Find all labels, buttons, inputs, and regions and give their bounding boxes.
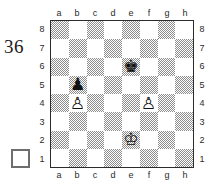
square-e7[interactable]: [122, 39, 140, 57]
square-b5[interactable]: ♟: [69, 76, 87, 94]
file-label: a: [50, 7, 68, 20]
square-e8[interactable]: [122, 21, 140, 39]
square-f4[interactable]: ♙: [140, 94, 158, 112]
square-h8[interactable]: [175, 21, 193, 39]
file-label: b: [68, 169, 86, 182]
square-c7[interactable]: [87, 39, 105, 57]
square-a1[interactable]: [51, 149, 69, 167]
square-h2[interactable]: [175, 131, 193, 149]
square-h4[interactable]: [175, 94, 193, 112]
square-b8[interactable]: [69, 21, 87, 39]
white-king-icon: ♔: [122, 131, 140, 149]
square-f7[interactable]: [140, 39, 158, 57]
square-c5[interactable]: [87, 76, 105, 94]
square-e3[interactable]: [122, 112, 140, 130]
rank-label: 7: [36, 39, 48, 58]
square-h7[interactable]: [175, 39, 193, 57]
file-labels-top: a b c d e f g h: [50, 7, 194, 20]
black-pawn-icon: ♟: [69, 76, 87, 94]
square-h3[interactable]: [175, 112, 193, 130]
rank-label: 6: [196, 57, 208, 76]
file-label: d: [104, 169, 122, 182]
square-f6[interactable]: [140, 58, 158, 76]
square-h5[interactable]: [175, 76, 193, 94]
square-a7[interactable]: [51, 39, 69, 57]
board-frame: ♚♟♙♙♔: [50, 20, 194, 168]
square-g3[interactable]: [158, 112, 176, 130]
square-g7[interactable]: [158, 39, 176, 57]
file-label: f: [140, 169, 158, 182]
square-e4[interactable]: [122, 94, 140, 112]
square-d3[interactable]: [104, 112, 122, 130]
rank-label: 2: [36, 131, 48, 150]
side-to-move-indicator: [11, 149, 30, 168]
square-a6[interactable]: [51, 58, 69, 76]
square-b3[interactable]: [69, 112, 87, 130]
square-h6[interactable]: [175, 58, 193, 76]
square-a8[interactable]: [51, 21, 69, 39]
square-d6[interactable]: [104, 58, 122, 76]
chess-diagram-page: 36 a b c d e f g h a b c d e f g h 8 7 6…: [0, 0, 210, 188]
file-label: g: [158, 7, 176, 20]
square-b4[interactable]: ♙: [69, 94, 87, 112]
diagram-number: 36: [4, 36, 38, 58]
square-c4[interactable]: [87, 94, 105, 112]
square-c8[interactable]: [87, 21, 105, 39]
square-e2[interactable]: ♔: [122, 131, 140, 149]
square-d8[interactable]: [104, 21, 122, 39]
rank-label: 5: [196, 76, 208, 95]
square-h1[interactable]: [175, 149, 193, 167]
square-f8[interactable]: [140, 21, 158, 39]
square-a4[interactable]: [51, 94, 69, 112]
file-label: a: [50, 169, 68, 182]
rank-label: 2: [196, 131, 208, 150]
square-g2[interactable]: [158, 131, 176, 149]
square-f5[interactable]: [140, 76, 158, 94]
square-c6[interactable]: [87, 58, 105, 76]
rank-label: 3: [196, 113, 208, 132]
rank-label: 1: [196, 150, 208, 169]
square-d4[interactable]: [104, 94, 122, 112]
square-b7[interactable]: [69, 39, 87, 57]
square-c2[interactable]: [87, 131, 105, 149]
black-king-icon: ♚: [122, 58, 140, 76]
file-label: e: [122, 169, 140, 182]
square-g6[interactable]: [158, 58, 176, 76]
rank-label: 6: [36, 57, 48, 76]
square-a3[interactable]: [51, 112, 69, 130]
chessboard: a b c d e f g h a b c d e f g h 8 7 6 5 …: [50, 20, 194, 169]
square-g8[interactable]: [158, 21, 176, 39]
square-d7[interactable]: [104, 39, 122, 57]
square-b1[interactable]: [69, 149, 87, 167]
square-g5[interactable]: [158, 76, 176, 94]
board-grid: ♚♟♙♙♔: [51, 21, 193, 167]
square-e1[interactable]: [122, 149, 140, 167]
square-g1[interactable]: [158, 149, 176, 167]
square-f3[interactable]: [140, 112, 158, 130]
square-f1[interactable]: [140, 149, 158, 167]
square-a2[interactable]: [51, 131, 69, 149]
square-b6[interactable]: [69, 58, 87, 76]
file-label: h: [176, 7, 194, 20]
rank-label: 8: [36, 20, 48, 39]
square-f2[interactable]: [140, 131, 158, 149]
rank-label: 4: [196, 94, 208, 113]
square-e6[interactable]: ♚: [122, 58, 140, 76]
file-labels-bottom: a b c d e f g h: [50, 169, 194, 182]
file-label: g: [158, 169, 176, 182]
square-e5[interactable]: [122, 76, 140, 94]
square-c3[interactable]: [87, 112, 105, 130]
square-d5[interactable]: [104, 76, 122, 94]
file-label: d: [104, 7, 122, 20]
square-b2[interactable]: [69, 131, 87, 149]
square-g4[interactable]: [158, 94, 176, 112]
square-a5[interactable]: [51, 76, 69, 94]
rank-label: 8: [196, 20, 208, 39]
square-d1[interactable]: [104, 149, 122, 167]
square-d2[interactable]: [104, 131, 122, 149]
square-c1[interactable]: [87, 149, 105, 167]
file-label: c: [86, 7, 104, 20]
white-pawn-icon: ♙: [140, 94, 158, 112]
file-label: e: [122, 7, 140, 20]
file-label: b: [68, 7, 86, 20]
